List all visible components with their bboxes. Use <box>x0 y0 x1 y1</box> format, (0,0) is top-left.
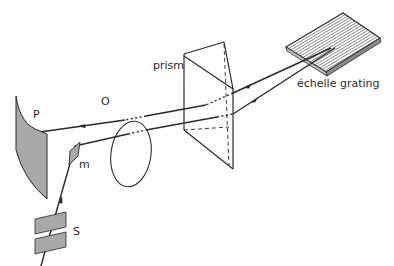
label-lens-o: O <box>101 96 110 107</box>
label-prism: prism <box>153 60 184 71</box>
photographic-plate <box>16 96 47 199</box>
label-echelle-grating: échelle grating <box>297 78 380 89</box>
prism <box>184 42 233 169</box>
dispersed-beam <box>40 48 331 132</box>
echelle-spectrograph-diagram <box>0 0 394 266</box>
label-plate-p: P <box>33 109 40 120</box>
label-slit-s: S <box>73 226 80 237</box>
label-mirror-m: m <box>79 159 90 170</box>
echelle-grating <box>286 13 381 76</box>
incident-beam <box>44 48 335 255</box>
